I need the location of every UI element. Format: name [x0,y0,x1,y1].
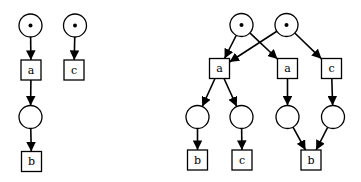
arcs-layer [31,31,333,151]
transition-label: b [194,154,201,167]
place-circle [322,106,345,129]
token-dot [29,24,33,28]
place-p3 [19,106,42,129]
place-q4 [230,106,253,129]
transition-t_b: b [22,152,42,172]
token-dot [73,24,77,28]
place-p2 [64,14,87,37]
nodes-layer: acbaacbcb [19,14,345,172]
place-q3 [186,106,209,129]
token-dot [285,23,289,27]
transition-label: c [71,64,77,77]
transition-u_b1: b [188,150,208,170]
transition-u_c2: c [232,150,252,170]
arc-q6-to-u_b2 [316,127,328,150]
arc-q5-to-u_b2 [293,127,306,150]
transition-label: c [239,154,245,167]
place-q5 [276,106,299,129]
arc-u_c1-to-q6 [332,79,333,106]
transition-label: a [216,62,223,75]
transition-u_c1: c [322,59,342,79]
place-circle [230,106,253,129]
transition-label: b [28,155,35,168]
place-circle [19,106,42,129]
transition-label: c [328,62,334,75]
arc-u_a1-to-q3 [202,79,215,107]
arc-q2-to-u_c1 [295,33,322,59]
transition-label: a [28,64,35,77]
transition-u_a2: a [278,59,298,79]
place-q1 [230,14,253,37]
transition-u_a1: a [210,59,230,79]
transition-t_a: a [21,60,41,80]
token-dot [240,23,244,27]
place-q6 [322,106,345,129]
arc-p3-to-t_b [31,128,32,151]
transition-label: b [307,154,314,167]
arc-q1-to-u_a1 [225,35,237,58]
place-circle [276,106,299,129]
petri-net-canvas: acbaacbcb [0,0,361,182]
transition-t_c: c [64,60,84,80]
arc-u_a1-to-q4 [224,79,237,107]
arc-p2-to-t_c [74,37,75,60]
transition-label: a [284,62,291,75]
transition-u_b2: b [301,150,321,170]
place-p1 [19,14,42,37]
place-q2 [275,14,298,37]
place-circle [186,106,209,129]
